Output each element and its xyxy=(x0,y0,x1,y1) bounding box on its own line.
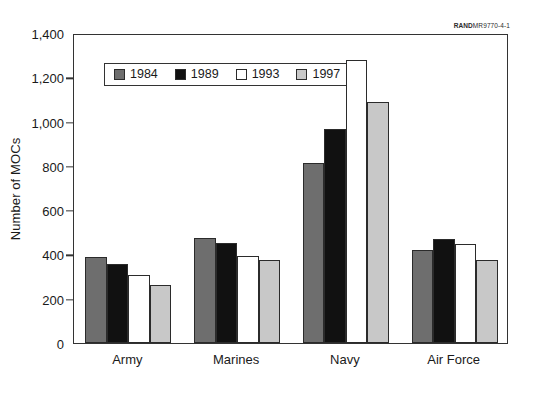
chart-legend: 1984198919931997 xyxy=(104,63,350,86)
legend-entry-1989[interactable]: 1989 xyxy=(175,68,219,81)
bar-army-1989[interactable] xyxy=(107,264,129,343)
legend-entry-1984[interactable]: 1984 xyxy=(114,68,158,81)
bar-army-1997[interactable] xyxy=(150,285,172,343)
x-category-label-navy: Navy xyxy=(330,352,360,367)
y-tick-label: 0 xyxy=(8,337,64,352)
legend-swatch-icon xyxy=(296,69,307,80)
legend-swatch-icon xyxy=(236,69,247,80)
bar-air-force-1993[interactable] xyxy=(455,244,477,343)
source-credit-prefix: RAND xyxy=(454,22,473,29)
bar-army-1984[interactable] xyxy=(85,257,107,343)
y-tick-label: 1,400 xyxy=(8,27,64,42)
legend-entry-1993[interactable]: 1993 xyxy=(236,68,280,81)
y-tick-label: 1,200 xyxy=(8,71,64,86)
bar-navy-1989[interactable] xyxy=(324,129,346,343)
y-tick-label: 200 xyxy=(8,292,64,307)
bar-air-force-1989[interactable] xyxy=(433,239,455,343)
bar-marines-1984[interactable] xyxy=(194,238,216,343)
bar-navy-1993[interactable] xyxy=(346,60,368,343)
legend-label: 1989 xyxy=(191,68,219,81)
source-credit-number: MR9770-4-1 xyxy=(473,22,510,29)
legend-label: 1993 xyxy=(252,68,280,81)
x-category-label-army: Army xyxy=(112,352,142,367)
source-credit-tag: RANDMR9770-4-1 xyxy=(454,22,510,29)
bar-air-force-1984[interactable] xyxy=(412,250,434,343)
bar-navy-1997[interactable] xyxy=(367,102,389,343)
legend-entry-1997[interactable]: 1997 xyxy=(296,68,340,81)
x-category-label-marines: Marines xyxy=(213,352,259,367)
bar-marines-1989[interactable] xyxy=(216,243,238,343)
bar-marines-1993[interactable] xyxy=(237,256,259,343)
y-tick-label: 800 xyxy=(8,159,64,174)
page-caption-fragment xyxy=(0,398,534,404)
y-tick-label: 1,000 xyxy=(8,115,64,130)
y-tick-label: 600 xyxy=(8,204,64,219)
legend-swatch-icon xyxy=(114,69,125,80)
bar-army-1993[interactable] xyxy=(128,275,150,343)
bar-marines-1997[interactable] xyxy=(259,260,281,343)
legend-swatch-icon xyxy=(175,69,186,80)
bar-navy-1984[interactable] xyxy=(303,163,325,343)
figure-container: RANDMR9770-4-1 Number of MOCs 0200400600… xyxy=(0,0,534,404)
x-category-label-air-force: Air Force xyxy=(427,352,480,367)
y-tick-label: 400 xyxy=(8,248,64,263)
legend-label: 1984 xyxy=(130,68,158,81)
bar-air-force-1997[interactable] xyxy=(476,260,498,343)
legend-label: 1997 xyxy=(312,68,340,81)
